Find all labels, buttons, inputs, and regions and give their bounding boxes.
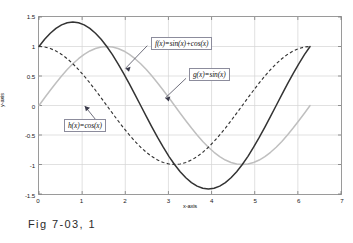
y-tick-label: 0.5 bbox=[11, 72, 35, 79]
y-tick-label: 1.5 bbox=[11, 13, 35, 20]
f-leader-line bbox=[125, 46, 147, 69]
y-tick-label: 1 bbox=[11, 42, 35, 49]
y-tick-label: -1 bbox=[11, 162, 35, 169]
figure-container: f(x)=sin(x)+cos(x) g(x)=sin(x) h(x)=cos(… bbox=[0, 0, 353, 243]
y-tick-label: 0 bbox=[11, 102, 35, 109]
plot-area: f(x)=sin(x)+cos(x) g(x)=sin(x) h(x)=cos(… bbox=[38, 16, 342, 195]
y-tick-label: -0.5 bbox=[11, 132, 35, 139]
annotation-h[interactable]: h(x)=cos(x) bbox=[64, 119, 106, 132]
x-axis-title: x-axis bbox=[38, 203, 342, 209]
figure-caption: Fig 7-03, 1 bbox=[28, 218, 96, 230]
g-leader-line bbox=[165, 78, 186, 98]
y-axis-title: y-axis bbox=[0, 93, 5, 107]
y-tick-label: -1.5 bbox=[11, 192, 35, 199]
annotation-g[interactable]: g(x)=sin(x) bbox=[189, 68, 230, 81]
h-arrowhead bbox=[85, 106, 90, 111]
annotation-f[interactable]: f(x)=sin(x)+cos(x) bbox=[151, 37, 212, 50]
